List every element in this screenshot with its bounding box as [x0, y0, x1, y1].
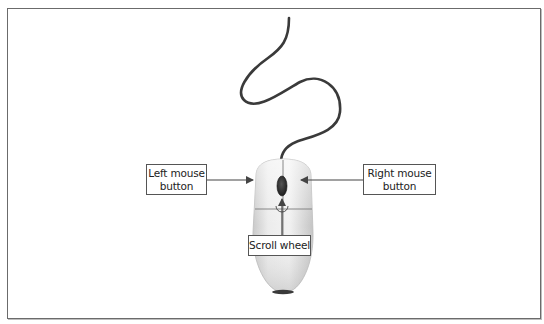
left-label-line2: button [160, 180, 193, 193]
right-label-line2: button [383, 180, 416, 193]
right-label-line1: Right mouse [367, 167, 431, 180]
scroll-wheel-label: Scroll wheel [248, 235, 311, 256]
scroll-wheel [277, 176, 287, 196]
mouse-cable [241, 18, 340, 162]
scroll-label-text: Scroll wheel [249, 239, 310, 252]
right-mouse-button-label: Right mouse button [363, 164, 436, 195]
left-mouse-button-label: Left mouse button [146, 164, 207, 195]
mouse-illustration [0, 0, 544, 324]
left-label-line1: Left mouse [148, 167, 204, 180]
